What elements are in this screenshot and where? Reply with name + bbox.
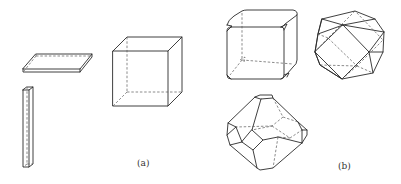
- needle-prism-shape: [23, 87, 33, 167]
- cube-shape: [113, 37, 182, 106]
- cuboctahedron-shape: [315, 11, 384, 79]
- figure-drawing: [0, 0, 401, 184]
- flat-plate-shape: [23, 54, 92, 72]
- crystal-habit-figure: (a) (b): [0, 0, 401, 184]
- panel-label-a: (a): [137, 158, 149, 168]
- truncated-octahedron-shape: [227, 95, 307, 170]
- panel-label-b: (b): [338, 161, 351, 171]
- truncated-cube-shape: [227, 10, 297, 79]
